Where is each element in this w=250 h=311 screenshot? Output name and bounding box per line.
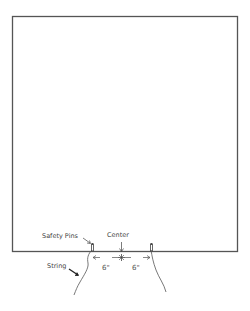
center-marker-icon xyxy=(118,254,125,261)
safety-pins-label: Safety Pins xyxy=(42,232,79,240)
right-safety-pin-icon xyxy=(151,243,153,251)
right-string xyxy=(151,250,166,292)
string-label: String xyxy=(47,262,66,270)
left-measure-arrow-icon xyxy=(93,256,118,260)
right-distance-label: 6" xyxy=(132,264,140,272)
left-distance-label: 6" xyxy=(102,264,110,272)
diagram-canvas: Safety Pins Center String 6" 6" xyxy=(0,0,250,311)
center-arrow-icon xyxy=(120,242,124,252)
fabric-square xyxy=(13,17,238,252)
center-label: Center xyxy=(107,231,129,239)
left-string xyxy=(74,250,92,295)
safety-pins-pointer-icon xyxy=(83,238,91,244)
string-pointer-icon xyxy=(69,269,79,276)
right-measure-arrow-icon xyxy=(125,256,150,260)
